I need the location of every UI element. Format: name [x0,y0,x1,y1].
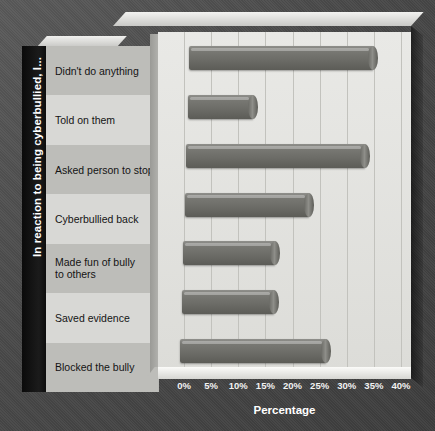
bar-end-cap [270,241,280,265]
plot-top-bevel [113,12,424,26]
category-label-text: Didn't do anything [55,65,139,77]
category-label-text: Asked person to stop [55,164,154,176]
gridline-35 [374,32,375,373]
bar-highlight [190,97,249,100]
plot-right-shadow [411,26,423,387]
x-tick-10: 10% [229,380,248,391]
category-label-6: Blocked the bully [46,343,158,392]
bar-end-cap [360,144,370,168]
plot-floor [158,367,411,379]
bar-4 [183,241,275,265]
category-label-text: Cyberbullied back [55,213,138,225]
plot-area [158,32,411,373]
bar-highlight [188,146,361,149]
bar-highlight [182,341,322,344]
bar-end-cap [321,339,331,363]
bar-end-cap [304,193,314,217]
category-label-2: Asked person to stop [46,145,158,194]
x-tick-30: 30% [337,380,356,391]
category-label-panel: Didn't do anythingTold on themAsked pers… [46,46,159,392]
category-label-text: Saved evidence [55,312,130,324]
category-label-4: Made fun of bullyto others [46,244,158,293]
category-label-text: Made fun of bullyto others [55,256,135,280]
bar-chart-3d: In reaction to being cyberbullied, I... … [10,12,425,412]
bar-highlight [185,243,271,246]
category-label-0: Didn't do anything [46,46,158,95]
x-tick-20: 20% [283,380,302,391]
gridline-40 [401,32,402,373]
bar-end-cap [368,46,378,70]
bar-highlight [191,48,369,51]
bar-end-cap [248,95,258,119]
x-tick-0: 0% [177,380,191,391]
category-label-text: Told on them [55,114,115,126]
chart-frame-background: In reaction to being cyberbullied, I... … [0,0,435,431]
y-axis-title-panel: In reaction to being cyberbullied, I... [22,46,46,392]
bar-2 [186,144,365,168]
x-tick-15: 15% [256,380,275,391]
bar-5 [182,290,274,314]
x-axis-title: Percentage [158,404,411,416]
x-tick-40: 40% [391,380,410,391]
gridline-25 [320,32,321,373]
x-tick-5: 5% [204,380,218,391]
bar-6 [180,339,326,363]
bar-highlight [184,292,270,295]
category-label-5: Saved evidence [46,293,158,342]
bar-1 [188,95,253,119]
x-axis-tick-labels: 0%5%10%15%20%25%30%35%40% [158,380,411,396]
category-label-text: Blocked the bully [55,361,134,373]
bar-end-cap [269,290,279,314]
x-tick-35: 35% [364,380,383,391]
x-tick-25: 25% [310,380,329,391]
bar-highlight [187,195,306,198]
bar-0 [189,46,373,70]
gridline-30 [347,32,348,373]
category-label-1: Told on them [46,95,158,144]
bar-3 [185,193,310,217]
category-label-3: Cyberbullied back [46,194,158,243]
